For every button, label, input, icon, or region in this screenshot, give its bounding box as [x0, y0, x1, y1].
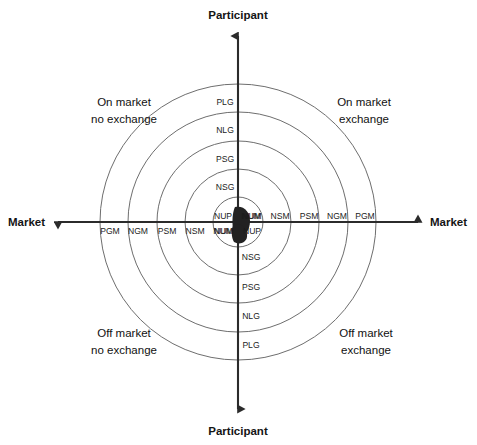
- quadrant-line-2: exchange: [341, 344, 391, 356]
- ring-label-up-3: NLG: [216, 125, 234, 135]
- ring-label-inner-lower-left: NUM: [213, 226, 233, 236]
- ring-label-ar-3: PSM: [300, 211, 319, 221]
- quadrant-label-bottom-right: Off market exchange: [339, 327, 393, 356]
- ring-label-down-3: NLG: [242, 311, 260, 321]
- quadrant-line-1: Off market: [339, 327, 393, 339]
- ring-label-down-1: NSG: [242, 252, 261, 262]
- quadrant-label-top-left: On market no exchange: [91, 96, 157, 125]
- quadrant-line-2: no exchange: [91, 344, 157, 356]
- quadrant-label-bottom-left: Off market no exchange: [91, 327, 157, 356]
- ring-label-al-3: PSM: [158, 226, 177, 236]
- ring-label-al-2: NSM: [185, 226, 204, 236]
- ring-label-inner-lower-right: NUP: [243, 226, 261, 236]
- ring-label-ar-2: NSM: [270, 211, 289, 221]
- ring-label-ar-4: NGM: [327, 211, 347, 221]
- ring-label-inner-upper-left: NUP: [214, 211, 232, 221]
- ring-label-down-2: PSG: [242, 282, 260, 292]
- axis-label-left: Market: [8, 216, 45, 228]
- ring-label-up-1: NSG: [216, 182, 235, 192]
- ring-label-al-4: NGM: [128, 226, 148, 236]
- ring-label-ar-5: PGM: [355, 211, 375, 221]
- quadrant-line-2: no exchange: [91, 113, 157, 125]
- quadrant-line-1: On market: [337, 96, 391, 108]
- ring-label-up-2: PSG: [216, 154, 234, 164]
- ring-label-al-5: PGM: [100, 226, 120, 236]
- ring-label-down-4: PLG: [242, 340, 260, 350]
- axis-label-bottom: Participant: [208, 425, 268, 437]
- ring-label-up-4: PLG: [216, 97, 234, 107]
- quadrant-label-top-right: On market exchange: [337, 96, 391, 125]
- quadrant-line-2: exchange: [339, 113, 389, 125]
- diagram-canvas: Participant Participant Market Market On…: [0, 0, 477, 445]
- ring-label-inner-upper-right: NUM: [242, 211, 262, 221]
- ring-labels-upper-vertical: NSG PSG NLG PLG: [216, 97, 235, 192]
- quadrant-line-1: On market: [97, 96, 151, 108]
- quadrant-line-1: Off market: [97, 327, 151, 339]
- axis-label-right: Market: [430, 216, 467, 228]
- quadrant-ring-diagram: Participant Participant Market Market On…: [0, 0, 477, 445]
- axis-label-top: Participant: [208, 9, 268, 21]
